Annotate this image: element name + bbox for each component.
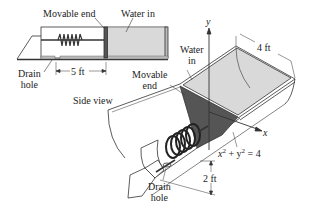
side-view-caption: Side view <box>73 95 113 106</box>
circle-equation-label: x2 + y2 = 4 <box>218 146 261 159</box>
side-length-label: 5 ft <box>71 66 85 77</box>
movable-end-label: Movable end <box>132 69 168 91</box>
diagram-canvas <box>0 0 309 211</box>
side-drain-hole-label: Drain hole <box>18 68 41 90</box>
side-water-in-label: Water in <box>121 8 155 19</box>
side-movable-end-label: Movable end <box>43 8 96 19</box>
width-dimension-label: 4 ft <box>257 42 271 53</box>
x-axis-label: x <box>263 127 267 138</box>
side-view-tank <box>17 18 168 75</box>
water-in-label: Water in <box>180 44 204 66</box>
drain-hole-label: Drain hole <box>148 181 171 203</box>
y-axis-label: y <box>206 16 210 27</box>
radius-dimension-label: 2 ft <box>203 173 217 184</box>
